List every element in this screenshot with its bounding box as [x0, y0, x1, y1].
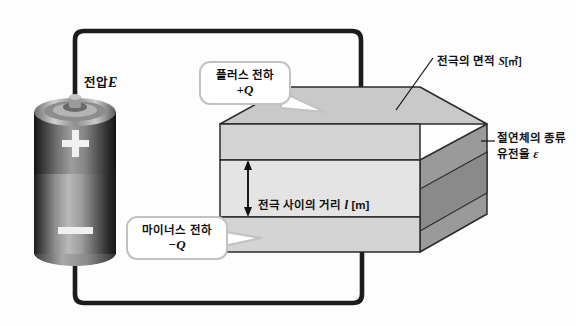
callout-plus-line2: +Q	[201, 82, 289, 97]
callout-plus-charge: 플러스 전하 +Q	[199, 61, 291, 105]
diagram-canvas: 전압E 전극의 면적 S[㎡] 절연체의 종류 유전율 ε 전극 사이의 거리 …	[0, 0, 576, 326]
label-electrode-area: 전극의 면적 S[㎡]	[437, 52, 521, 68]
label-voltage: 전압E	[84, 72, 117, 91]
callout-minus-charge: 마이너스 전하 −Q	[126, 216, 228, 260]
label-voltage-text: 전압	[84, 76, 108, 90]
label-area-unit: [㎡]	[505, 56, 522, 67]
callout-tails-layer	[0, 0, 576, 326]
label-distance-text: 전극 사이의 거리	[258, 199, 341, 211]
callout-minus-line1: 마이너스 전하	[128, 223, 226, 237]
callout-plus-line1: 플러스 전하	[201, 68, 289, 82]
label-distance-symbol: l	[345, 197, 349, 212]
callout-minus-line2: −Q	[128, 237, 226, 252]
label-dielectric-line2: 유전율 ε	[497, 146, 566, 162]
label-dielectric: 절연체의 종류 유전율 ε	[497, 130, 566, 162]
label-dielectric-text: 유전율	[497, 148, 530, 160]
label-plate-distance: 전극 사이의 거리 l [m]	[258, 196, 369, 213]
label-dielectric-line1: 절연체의 종류	[497, 130, 566, 146]
label-voltage-symbol: E	[108, 75, 117, 90]
label-area-text: 전극의 면적	[437, 55, 495, 67]
label-distance-unit: [m]	[351, 199, 369, 211]
label-dielectric-symbol: ε	[533, 147, 538, 161]
